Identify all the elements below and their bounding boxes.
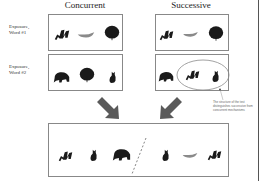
cat-icon bbox=[108, 70, 117, 84]
fish-icon bbox=[182, 30, 199, 38]
bear-icon bbox=[53, 70, 70, 84]
divider-dashed-line bbox=[129, 136, 149, 176]
row-label-word1: Exposure, Word #1 bbox=[9, 24, 49, 36]
tree-icon bbox=[79, 66, 95, 84]
seal-icon bbox=[207, 149, 222, 161]
cat-icon bbox=[89, 148, 98, 162]
seal-icon bbox=[159, 29, 174, 41]
tree-icon bbox=[208, 25, 224, 42]
column-title-concurrent: Concurrent bbox=[45, 0, 125, 10]
concurrent-word2-box bbox=[48, 54, 123, 91]
test-box bbox=[48, 123, 229, 177]
arrow-down-right-icon bbox=[94, 94, 124, 124]
annotation-note: The structure of the test distinguishes … bbox=[213, 100, 253, 112]
tree-icon bbox=[104, 24, 120, 42]
highlight-ellipse bbox=[175, 58, 231, 92]
fish-icon bbox=[77, 30, 95, 39]
successive-word1-box bbox=[155, 14, 229, 51]
row-label-word2: Exposure, Word #2 bbox=[9, 64, 49, 76]
concurrent-word1-box bbox=[48, 14, 123, 51]
fish-icon bbox=[181, 151, 199, 159]
column-title-successive: Successive bbox=[151, 0, 231, 10]
bear-icon bbox=[158, 70, 174, 83]
seal-icon bbox=[54, 28, 70, 41]
arrow-down-left-icon bbox=[155, 94, 185, 124]
page-edge-line bbox=[258, 0, 259, 181]
cat-icon bbox=[161, 148, 170, 162]
seal-icon bbox=[58, 150, 73, 162]
